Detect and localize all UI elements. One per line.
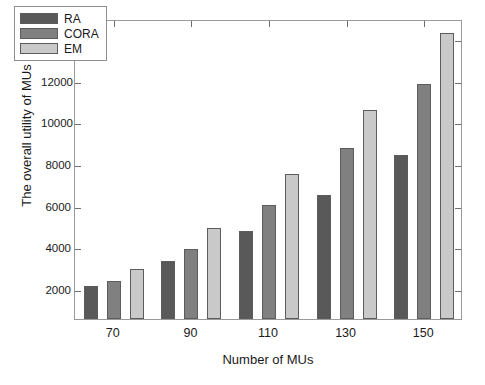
- y-axis-tick-mark: [75, 208, 81, 209]
- y-axis-tick-mark: [75, 291, 81, 292]
- y-axis-tick-label: 10000: [41, 119, 71, 131]
- chart-legend: RACORAEM: [14, 6, 107, 61]
- bar-em-90: [207, 228, 221, 319]
- legend-label-cora: CORA: [64, 28, 99, 40]
- bar-ra-70: [84, 286, 98, 319]
- legend-item-ra[interactable]: RA: [20, 11, 99, 26]
- y-axis-tick-mark-right: [455, 208, 461, 209]
- x-axis-tick-mark-top: [269, 21, 270, 27]
- legend-swatch-ra: [20, 13, 58, 24]
- legend-item-em[interactable]: EM: [20, 41, 99, 56]
- bar-ra-150: [394, 155, 408, 319]
- bar-cora-90: [184, 249, 198, 320]
- x-axis-tick-mark-top: [347, 21, 348, 27]
- y-axis-tick-mark: [75, 166, 81, 167]
- bar-cora-110: [262, 205, 276, 319]
- x-axis-tick-mark-top: [191, 21, 192, 27]
- y-axis-tick-mark-right: [455, 291, 461, 292]
- bar-cora-150: [417, 84, 431, 319]
- bar-chart-figure: 2000400060008000100001200014000 The over…: [0, 0, 485, 385]
- bar-em-110: [285, 174, 299, 319]
- bar-ra-130: [317, 195, 331, 319]
- y-axis-tick-mark-right: [455, 166, 461, 167]
- y-axis-tick-label: 4000: [41, 244, 71, 256]
- y-axis-tick-mark-right: [455, 83, 461, 84]
- bar-ra-110: [239, 231, 253, 319]
- y-axis-tick-label: 12000: [41, 77, 71, 89]
- x-axis-tick-label: 110: [258, 326, 278, 340]
- y-axis-tick-label: 6000: [41, 202, 71, 214]
- y-axis-tick-mark: [75, 83, 81, 84]
- x-axis-tick-label: 130: [335, 326, 356, 340]
- legend-swatch-em: [20, 43, 58, 54]
- bar-cora-130: [340, 148, 354, 319]
- bar-cora-70: [107, 281, 121, 319]
- legend-label-em: EM: [64, 43, 82, 55]
- x-axis-tick-mark-top: [424, 21, 425, 27]
- legend-item-cora[interactable]: CORA: [20, 26, 99, 41]
- x-axis-label: Number of MUs: [74, 352, 462, 367]
- bar-em-150: [440, 33, 454, 319]
- x-axis-tick-label: 150: [413, 326, 434, 340]
- y-axis-tick-mark-right: [455, 124, 461, 125]
- y-axis-tick-mark: [75, 124, 81, 125]
- y-axis-tick-label: 8000: [41, 160, 71, 172]
- plot-area: 2000400060008000100001200014000: [74, 20, 462, 320]
- y-axis-tick-mark: [75, 249, 81, 250]
- x-axis-tick-mark-top: [114, 21, 115, 27]
- legend-label-ra: RA: [64, 13, 81, 25]
- bar-em-70: [130, 269, 144, 319]
- y-axis-tick-mark-right: [455, 41, 461, 42]
- y-axis-tick-label: 2000: [41, 285, 71, 297]
- bar-ra-90: [161, 261, 175, 319]
- legend-swatch-cora: [20, 28, 58, 39]
- x-axis-tick-label: 70: [106, 326, 120, 340]
- x-axis-tick-label: 90: [183, 326, 197, 340]
- y-axis-tick-mark-right: [455, 249, 461, 250]
- bar-em-130: [363, 110, 377, 319]
